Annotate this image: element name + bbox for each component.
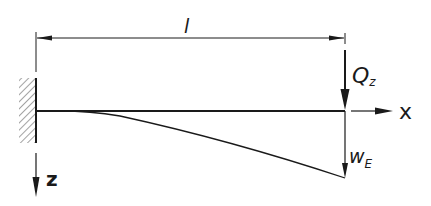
deflection-curve [60, 111, 345, 178]
cantilever-diagram: l Qz x wE z [0, 0, 431, 206]
wall-hatching [19, 78, 36, 143]
x-axis-arrowhead-icon [375, 108, 393, 115]
force-arrowhead-icon [341, 89, 350, 110]
z-axis: z [33, 153, 58, 197]
length-dimension: l [36, 15, 345, 72]
dimension-arrow-right-icon [329, 36, 344, 41]
force-arrow: Qz [341, 50, 377, 110]
force-label: Qz [352, 63, 376, 89]
length-label: l [184, 15, 190, 37]
fixed-support [19, 78, 36, 143]
end-deflection: wE [342, 111, 373, 178]
x-axis-label: x [399, 99, 412, 124]
deflection-arrowhead-icon [342, 163, 348, 178]
deflection-label: wE [349, 145, 373, 171]
x-axis: x [351, 99, 412, 124]
z-axis-label: z [46, 167, 58, 191]
z-axis-arrowhead-icon [33, 177, 40, 197]
dimension-arrow-left-icon [37, 36, 52, 41]
